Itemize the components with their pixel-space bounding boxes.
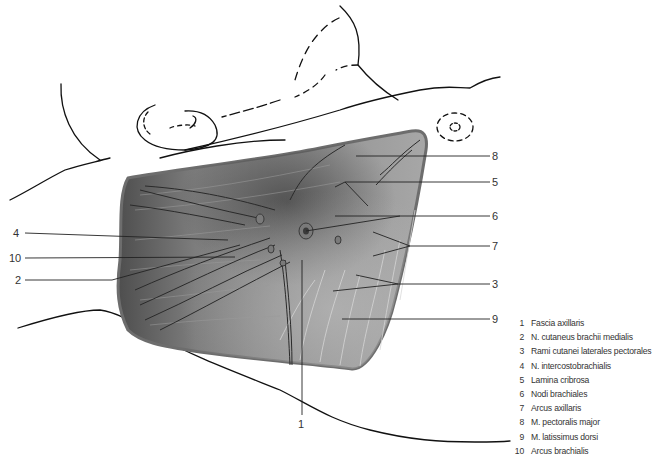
dissection-window: [118, 131, 426, 369]
legend-num: 2: [510, 330, 524, 344]
callout-10: 10: [9, 252, 21, 264]
legend-num: 1: [510, 316, 524, 330]
callout-3: 3: [492, 278, 498, 290]
legend-item: 8M. pectoralis major: [510, 415, 651, 429]
legend-label: M. pectoralis major: [531, 415, 600, 429]
callout-2: 2: [15, 274, 21, 286]
callout-6: 6: [492, 210, 498, 222]
legend-label: Rami cutanei laterales pectorales: [531, 344, 651, 358]
legend-num: 9: [510, 430, 524, 444]
legend-label: Lamina cribrosa: [531, 373, 589, 387]
legend-item: 5Lamina cribrosa: [510, 373, 651, 387]
legend-item: 3Rami cutanei laterales pectorales: [510, 344, 651, 358]
anatomy-figure: 4 10 2 8 5 6 7 3 9 1 1Fascia axillaris 2…: [0, 0, 661, 459]
legend-num: 7: [510, 401, 524, 415]
legend-item: 6Nodi brachiales: [510, 387, 651, 401]
legend-label: Nodi brachiales: [531, 387, 587, 401]
legend-label: M. latissimus dorsi: [531, 430, 598, 444]
legend: 1Fascia axillaris 2N. cutaneus brachii m…: [510, 316, 651, 458]
legend-label: N. intercostobrachialis: [531, 359, 611, 373]
callout-9: 9: [492, 313, 498, 325]
legend-num: 3: [510, 344, 524, 358]
legend-num: 6: [510, 387, 524, 401]
legend-item: 9M. latissimus dorsi: [510, 430, 651, 444]
legend-num: 5: [510, 373, 524, 387]
legend-item: 7Arcus axillaris: [510, 401, 651, 415]
callout-1: 1: [298, 418, 304, 430]
legend-label: Fascia axillaris: [531, 316, 584, 330]
legend-label: Arcus axillaris: [531, 401, 581, 415]
legend-item: 2N. cutaneus brachii medialis: [510, 330, 651, 344]
legend-num: 4: [510, 359, 524, 373]
legend-item: 4N. intercostobrachialis: [510, 359, 651, 373]
callout-7: 7: [492, 240, 498, 252]
legend-label: N. cutaneus brachii medialis: [531, 330, 633, 344]
callout-5: 5: [492, 176, 498, 188]
legend-item: 10Arcus brachialis: [510, 444, 651, 458]
legend-item: 1Fascia axillaris: [510, 316, 651, 330]
legend-label: Arcus brachialis: [531, 444, 588, 458]
callout-4: 4: [13, 227, 19, 239]
legend-num: 10: [510, 444, 524, 458]
callout-8: 8: [492, 150, 498, 162]
legend-num: 8: [510, 415, 524, 429]
